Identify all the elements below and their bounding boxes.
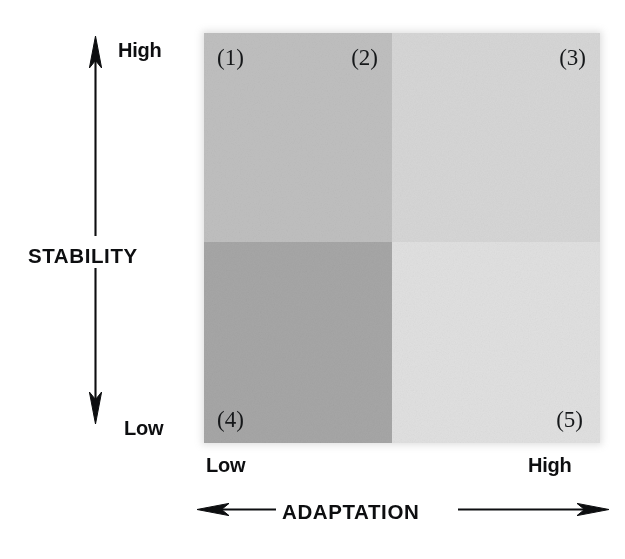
stability-low-tick-label: Low [124,418,163,438]
stability-axis-arrow [89,36,101,424]
adaptation-high-tick-label: High [528,455,572,475]
stability-high-tick-label: High [118,40,162,60]
quadrant-cell-low-stability-low-adaptation[interactable]: (4) [204,242,392,443]
quadrant-cell-low-stability-high-adaptation[interactable]: (5) [392,242,600,443]
adaptation-low-tick-label: Low [206,455,245,475]
quadrant-label-1: (1) [217,46,244,69]
quadrant-label-3: (3) [559,46,586,69]
quadrant-label-4: (4) [217,408,244,431]
quadrant-label-2: (2) [351,46,378,69]
adaptation-axis-title: ADAPTATION [282,502,419,523]
quadrant-cell-high-stability-low-adaptation[interactable]: (1) (2) [204,33,392,242]
stability-axis-title: STABILITY [28,246,138,267]
quadrant-cell-high-stability-high-adaptation[interactable]: (3) [392,33,600,242]
matrix-figure: (1) (2) (3) (4) (5) [0,0,625,559]
quadrant-matrix: (1) (2) (3) (4) (5) [204,33,600,443]
quadrant-label-5: (5) [556,408,583,431]
